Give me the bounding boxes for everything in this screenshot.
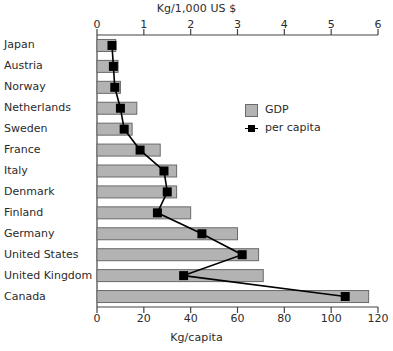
gdp-bar-finland xyxy=(97,207,191,219)
per-capita-marker-united-states xyxy=(238,250,247,259)
per-capita-marker-icon xyxy=(245,123,258,134)
per-capita-marker-germany xyxy=(197,229,206,238)
per-capita-marker-italy xyxy=(159,167,168,176)
per-capita-marker-france xyxy=(136,146,145,155)
gdp-swatch-icon xyxy=(245,104,258,117)
gdp-bar-canada xyxy=(97,291,369,303)
chart-legend: GDP per capita xyxy=(245,102,321,138)
legend-item-gdp: GDP xyxy=(245,102,321,118)
legend-item-per-capita: per capita xyxy=(245,120,321,136)
per-capita-marker-canada xyxy=(341,292,350,301)
per-capita-marker-austria xyxy=(109,62,118,71)
chart-container: Kg/1,000 US $ Kg/capita 0123456 02040608… xyxy=(0,0,393,351)
plot-area xyxy=(0,0,393,351)
per-capita-marker-united-kingdom xyxy=(179,271,188,280)
legend-label-per-capita: per capita xyxy=(265,122,321,134)
per-capita-marker-netherlands xyxy=(116,104,125,113)
per-capita-marker-finland xyxy=(153,208,162,217)
gdp-bar-germany xyxy=(97,228,238,240)
gdp-bar-france xyxy=(97,144,160,156)
legend-label-gdp: GDP xyxy=(265,104,289,116)
per-capita-marker-denmark xyxy=(163,187,172,196)
per-capita-marker-japan xyxy=(107,41,116,50)
per-capita-marker-sweden xyxy=(120,125,129,134)
per-capita-marker-norway xyxy=(110,83,119,92)
